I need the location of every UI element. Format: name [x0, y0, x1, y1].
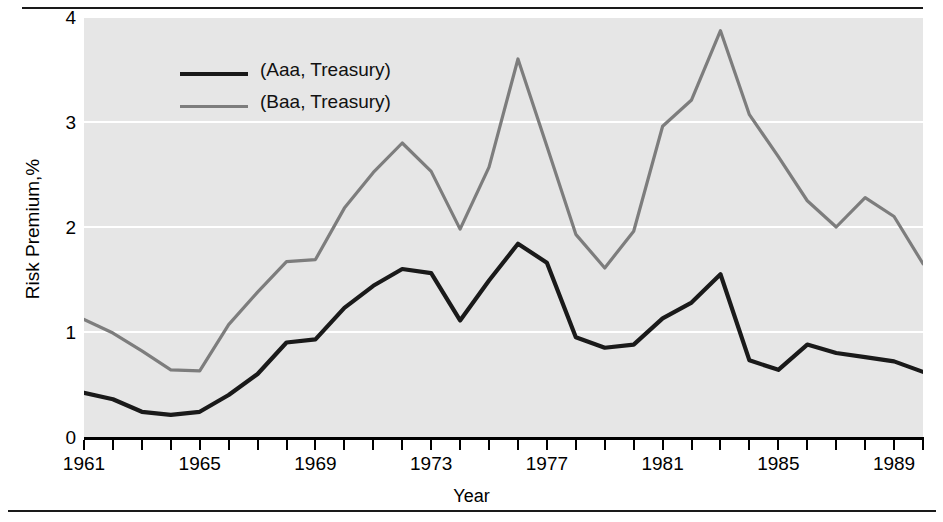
- x-tick-mark-1984: [748, 440, 750, 450]
- plot-area: (Aaa, Treasury) (Baa, Treasury): [84, 17, 923, 437]
- x-tick-mark-1973: [430, 440, 432, 450]
- x-tick-label-1981: 1981: [628, 453, 698, 475]
- x-tick-mark-1970: [343, 440, 345, 450]
- legend-swatch-aaa: [180, 72, 248, 76]
- x-tick-mark-1982: [691, 440, 693, 450]
- x-tick-mark-1966: [228, 440, 230, 450]
- x-tick-mark-1986: [806, 440, 808, 450]
- x-tick-mark-1987: [835, 440, 837, 450]
- x-tick-mark-1963: [141, 440, 143, 450]
- x-tick-mark-1968: [286, 440, 288, 450]
- y-tick-label-0: 0: [54, 428, 76, 447]
- legend-label-baa: (Baa, Treasury): [260, 91, 391, 113]
- chart-legend: (Aaa, Treasury) (Baa, Treasury): [180, 59, 440, 123]
- x-tick-mark-1990: [922, 440, 924, 450]
- x-axis-line: [84, 437, 924, 440]
- x-tick-mark-1988: [864, 440, 866, 450]
- x-tick-mark-1964: [170, 440, 172, 450]
- legend-label-aaa: (Aaa, Treasury): [260, 59, 391, 81]
- x-axis-title: Year: [0, 486, 943, 507]
- x-tick-mark-1969: [314, 440, 316, 450]
- figure-bottom-rule: [8, 510, 936, 512]
- x-tick-mark-1981: [662, 440, 664, 450]
- x-tick-mark-1971: [372, 440, 374, 450]
- x-tick-mark-1972: [401, 440, 403, 450]
- legend-item-aaa: (Aaa, Treasury): [180, 59, 440, 91]
- x-tick-label-1969: 1969: [280, 453, 350, 475]
- x-tick-label-1985: 1985: [743, 453, 813, 475]
- x-tick-mark-1961: [83, 440, 85, 450]
- x-tick-label-1989: 1989: [859, 453, 929, 475]
- data-line-aaa: [84, 244, 923, 415]
- y-tick-label-1: 1: [54, 323, 76, 342]
- x-tick-mark-1962: [112, 440, 114, 450]
- x-tick-mark-1985: [777, 440, 779, 450]
- x-tick-mark-1965: [199, 440, 201, 450]
- x-tick-label-1965: 1965: [165, 453, 235, 475]
- y-tick-label-2: 2: [54, 218, 76, 237]
- y-tick-label-4: 4: [54, 8, 76, 27]
- legend-swatch-baa: [180, 105, 248, 108]
- x-tick-label-1961: 1961: [49, 453, 119, 475]
- x-tick-mark-1979: [604, 440, 606, 450]
- x-tick-mark-1989: [893, 440, 895, 450]
- x-tick-mark-1980: [633, 440, 635, 450]
- x-tick-mark-1976: [517, 440, 519, 450]
- figure-top-rule: [22, 7, 923, 9]
- y-axis-title: Risk Premium,%: [22, 134, 44, 324]
- x-tick-label-1977: 1977: [512, 453, 582, 475]
- x-tick-mark-1978: [575, 440, 577, 450]
- x-tick-mark-1974: [459, 440, 461, 450]
- x-tick-label-1973: 1973: [396, 453, 466, 475]
- risk-premium-figure: 4 3 2 1 0 Risk Premium,% (Aaa, Treasury)…: [0, 0, 943, 522]
- x-tick-mark-1977: [546, 440, 548, 450]
- x-tick-mark-1983: [719, 440, 721, 450]
- legend-item-baa: (Baa, Treasury): [180, 91, 440, 123]
- y-axis-tick-labels: 4 3 2 1 0: [46, 0, 76, 522]
- y-tick-label-3: 3: [54, 113, 76, 132]
- x-tick-mark-1975: [488, 440, 490, 450]
- x-tick-mark-1967: [257, 440, 259, 450]
